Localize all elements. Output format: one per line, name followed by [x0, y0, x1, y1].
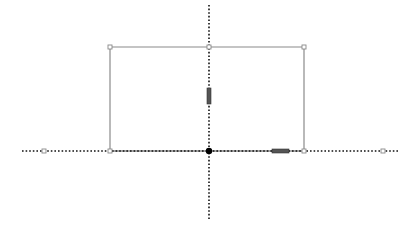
- handle-midpoint-top[interactable]: [207, 45, 211, 49]
- handle-axis-end-left[interactable]: [42, 149, 46, 153]
- horizontal-marker[interactable]: [272, 149, 289, 153]
- origin-point[interactable]: [206, 148, 212, 154]
- sketch-canvas[interactable]: [0, 0, 417, 240]
- handle-corner-bottom-left[interactable]: [108, 149, 112, 153]
- sketch-svg[interactable]: [0, 0, 417, 240]
- handle-corner-top-left[interactable]: [108, 45, 112, 49]
- handles[interactable]: [42, 45, 385, 153]
- handle-axis-end-right[interactable]: [381, 149, 385, 153]
- axes: [22, 5, 398, 220]
- handle-corner-top-right[interactable]: [302, 45, 306, 49]
- handle-corner-bottom-right[interactable]: [302, 149, 306, 153]
- constraint-markers[interactable]: [207, 88, 289, 153]
- vertical-marker[interactable]: [207, 88, 211, 104]
